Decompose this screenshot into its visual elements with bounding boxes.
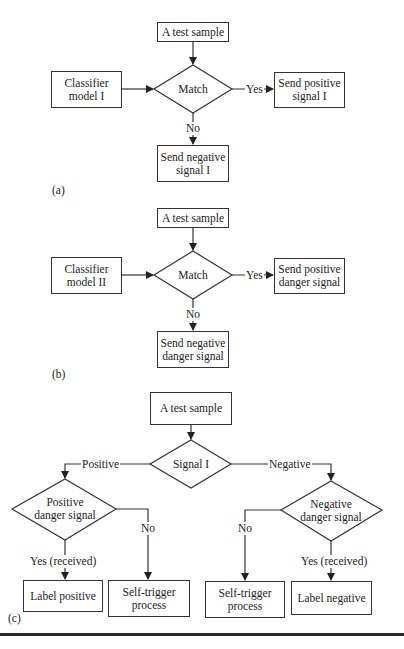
right-yes-received-label: Yes (received) [300,555,368,568]
signal-1-label: Signal I [160,458,222,471]
no-label-b: No [185,308,201,321]
test-sample-box-b: A test sample [157,208,229,228]
self-trigger-process-right-box: Self-trigger process [205,581,285,618]
positive-danger-signal-label: Positive danger signal [25,496,105,522]
self-trigger-process-left-box: Self-trigger process [108,580,190,617]
send-negative-signal-1-box: Send negative signal I [157,145,229,182]
negative-danger-signal-label: Negative danger signal [291,498,371,524]
send-positive-signal-1-box: Send positive signal I [274,72,345,108]
right-no-label: No [237,522,253,535]
yes-label-a: Yes [245,83,264,96]
send-positive-danger-signal-box: Send positive danger signal [274,258,345,294]
match-label-a: Match [163,83,223,96]
left-yes-received-label: Yes (received) [29,555,97,568]
match-label-b: Match [163,269,223,282]
label-negative-box: Label negative [291,581,372,615]
bottom-rule [0,633,404,636]
positive-branch-label: Positive [81,458,120,471]
classifier-model-2-box: Classifier model II [51,257,122,294]
caption-a: (a) [52,184,65,196]
classifier-model-1-box: Classifier model I [51,71,122,108]
send-negative-danger-signal-box: Send negative danger signal [157,331,229,368]
yes-label-b: Yes [245,269,264,282]
caption-c: (c) [8,612,21,624]
test-sample-box-c: A test sample [150,392,232,425]
caption-b: (b) [52,368,65,380]
label-positive-box: Label positive [23,580,103,612]
negative-branch-label: Negative [268,458,312,471]
no-label-a: No [185,122,201,135]
test-sample-box-a: A test sample [157,22,229,42]
left-no-label: No [140,522,156,535]
